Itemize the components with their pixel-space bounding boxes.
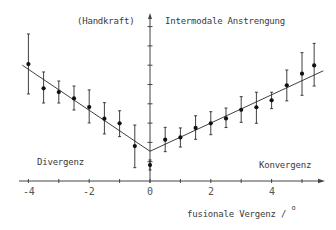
data-point bbox=[300, 72, 304, 76]
data-point bbox=[148, 163, 152, 167]
data-point bbox=[254, 105, 258, 109]
annotation-divergenz: Divergenz bbox=[37, 158, 84, 167]
data-point bbox=[102, 117, 106, 121]
vergence-effort-chart bbox=[0, 0, 336, 230]
data-point bbox=[312, 63, 316, 67]
data-point bbox=[209, 121, 213, 125]
x-tick-label-2: 2 bbox=[208, 187, 214, 197]
data-point bbox=[42, 86, 46, 90]
data-point bbox=[178, 135, 182, 139]
data-point bbox=[57, 90, 61, 94]
annotation-konvergenz: Konvergenz bbox=[259, 161, 311, 170]
data-point bbox=[87, 105, 91, 109]
data-point bbox=[133, 144, 137, 148]
x-tick-label-minus-4: -4 bbox=[23, 187, 35, 197]
data-points bbox=[26, 34, 316, 170]
data-point bbox=[72, 96, 76, 100]
y-axis-arrow-icon bbox=[148, 13, 152, 19]
data-point bbox=[270, 98, 274, 102]
degree-unit: o bbox=[291, 204, 295, 212]
regression-line bbox=[22, 65, 150, 151]
data-point bbox=[26, 62, 30, 66]
regression-lines bbox=[22, 65, 323, 151]
y-axis-title: Intermodale Anstrengung bbox=[165, 17, 285, 26]
data-point bbox=[224, 116, 228, 120]
data-point bbox=[118, 121, 122, 125]
x-axis-title: fusionale Vergenz / o bbox=[187, 208, 295, 219]
x-axis-arrow-icon bbox=[318, 179, 325, 183]
data-point bbox=[194, 126, 198, 130]
data-point bbox=[239, 108, 243, 112]
y-axis-note-handkraft: (Handkraft) bbox=[77, 17, 134, 26]
x-tick-label-minus-2: -2 bbox=[83, 187, 95, 197]
x-tick-label-4: 4 bbox=[269, 187, 275, 197]
data-point bbox=[285, 83, 289, 87]
x-tick-label-0: 0 bbox=[147, 187, 153, 197]
regression-line bbox=[150, 71, 323, 151]
data-point bbox=[163, 138, 167, 142]
x-axis-title-text: fusionale Vergenz / bbox=[187, 209, 286, 219]
